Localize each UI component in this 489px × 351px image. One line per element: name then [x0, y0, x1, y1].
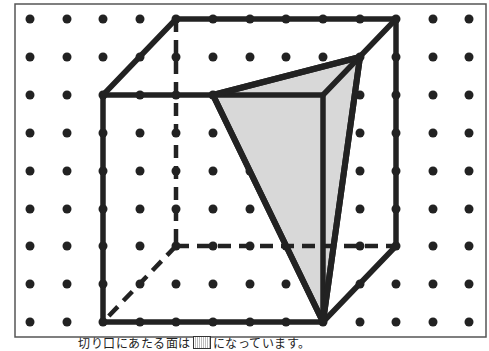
- grid-dot: [63, 91, 72, 100]
- grid-dot: [99, 53, 108, 62]
- grid-dot: [356, 318, 365, 327]
- grid-dot: [356, 129, 365, 138]
- grid-dot: [26, 129, 35, 138]
- grid-dot: [282, 280, 291, 289]
- grid-dot: [26, 280, 35, 289]
- grid-dot: [465, 318, 474, 327]
- grid-dot: [136, 242, 145, 251]
- caption-text-after: になっています。: [213, 337, 311, 351]
- grid-dot: [465, 91, 474, 100]
- grid-dot: [209, 280, 218, 289]
- grid-dot: [63, 242, 72, 251]
- grid-dot: [136, 129, 145, 138]
- grid-dot: [26, 15, 35, 24]
- grid-dot: [136, 167, 145, 176]
- grid-dot: [356, 205, 365, 214]
- grid-dot: [465, 242, 474, 251]
- grid-dot: [429, 91, 438, 100]
- grid-dot: [209, 167, 218, 176]
- grid-dot: [63, 167, 72, 176]
- grid-dot: [172, 53, 181, 62]
- grid-dot: [356, 167, 365, 176]
- grid-dot: [429, 280, 438, 289]
- grid-dot: [63, 280, 72, 289]
- grid-dot: [429, 15, 438, 24]
- grid-dot: [209, 129, 218, 138]
- question-caption: 切り口にあたる面はになっています。: [78, 334, 311, 351]
- grid-dot: [282, 53, 291, 62]
- grid-dot: [319, 53, 328, 62]
- grid-dot: [392, 318, 401, 327]
- caption-text-before: 切り口にあたる面は: [78, 337, 191, 351]
- grid-dot: [429, 205, 438, 214]
- grid-dot: [26, 91, 35, 100]
- grid-dot: [26, 167, 35, 176]
- grid-dot: [392, 280, 401, 289]
- grid-dot: [63, 53, 72, 62]
- hidden-edge: [103, 246, 176, 322]
- grid-dot: [99, 15, 108, 24]
- grid-dot: [465, 53, 474, 62]
- grid-dot: [63, 205, 72, 214]
- grid-dot: [465, 205, 474, 214]
- grid-dot: [246, 53, 255, 62]
- grid-dot: [136, 205, 145, 214]
- grid-dot: [429, 318, 438, 327]
- grid-dot: [26, 53, 35, 62]
- grid-dot: [465, 15, 474, 24]
- grid-dot: [246, 205, 255, 214]
- cube-edge: [103, 19, 176, 95]
- grid-dot: [26, 242, 35, 251]
- grid-dot: [136, 15, 145, 24]
- grid-dot: [63, 318, 72, 327]
- grid-dot: [429, 167, 438, 176]
- grid-dot: [209, 205, 218, 214]
- grid-dot: [465, 167, 474, 176]
- grid-dot: [26, 318, 35, 327]
- grid-dot: [465, 129, 474, 138]
- grid-dot: [246, 280, 255, 289]
- grid-dot: [209, 53, 218, 62]
- grid-dot: [63, 15, 72, 24]
- answer-blank-box[interactable]: [193, 336, 211, 349]
- grid-dot: [172, 280, 181, 289]
- grid-dot: [63, 129, 72, 138]
- grid-dot: [429, 242, 438, 251]
- grid-dot: [465, 280, 474, 289]
- grid-dot: [429, 53, 438, 62]
- grid-dot: [429, 129, 438, 138]
- grid-dot: [26, 205, 35, 214]
